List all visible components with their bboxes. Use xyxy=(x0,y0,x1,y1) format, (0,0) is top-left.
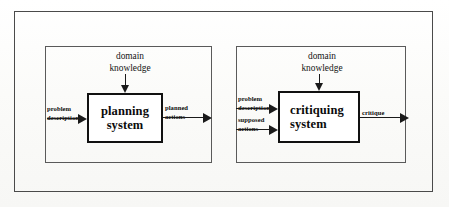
input-label-supposed-actions: supposed actions xyxy=(238,116,264,134)
process-label-line2: system xyxy=(107,118,144,132)
output-label-line1: planned xyxy=(165,104,188,111)
process-box-planning-system: planning system xyxy=(87,93,163,143)
process-label-line2: system xyxy=(290,117,327,131)
process-label-line1: planning xyxy=(101,104,149,118)
right-arrow-icon-input-planning xyxy=(47,118,79,119)
process-label-line1: critiquing xyxy=(290,103,344,117)
domain-knowledge-line2: knowledge xyxy=(109,63,150,73)
domain-knowledge-label-planning: domain knowledge xyxy=(94,50,166,75)
input-label-problem-description-critiquing: problem description xyxy=(238,95,270,113)
down-arrow-icon-critiquing xyxy=(319,74,320,84)
domain-knowledge-line2: knowledge xyxy=(301,63,342,73)
diagram-canvas: domain knowledge problem description pla… xyxy=(0,0,449,207)
input-label-problem-description-planning: problem description xyxy=(47,105,79,123)
input-label-line1: supposed xyxy=(238,116,264,123)
right-arrow-icon-input-problem-description xyxy=(236,108,270,109)
down-arrow-icon-planning xyxy=(125,74,126,86)
right-arrow-icon-output-planning xyxy=(163,117,204,118)
right-arrow-icon-input-supposed-actions xyxy=(236,129,270,130)
process-box-critiquing-system: critiquing system xyxy=(278,91,360,143)
domain-knowledge-label-critiquing: domain knowledge xyxy=(286,50,358,75)
input-label-line1: problem xyxy=(238,95,262,102)
domain-knowledge-line1: domain xyxy=(116,51,144,61)
output-label-planned-actions: planned actions xyxy=(165,104,188,122)
domain-knowledge-line1: domain xyxy=(308,51,336,61)
output-label-line1: critique xyxy=(362,109,384,116)
right-arrow-icon-output-critiquing xyxy=(360,117,401,118)
input-label-line1: problem xyxy=(47,105,71,112)
